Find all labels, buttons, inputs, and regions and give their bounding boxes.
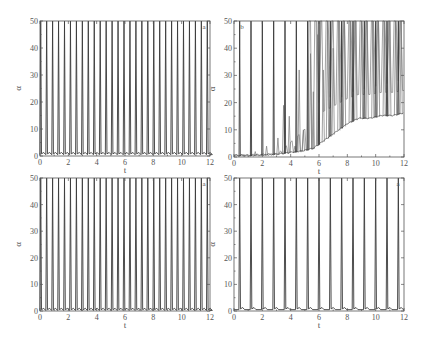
panel-top-right: 024681012t01020304050αb (207, 17, 408, 176)
x-tick-label: 4 (289, 313, 293, 322)
y-tick-label: 0 (228, 307, 232, 316)
secondary-peak (298, 70, 300, 152)
y-axis-label: α (13, 86, 23, 91)
panel-label: a (202, 23, 206, 31)
main-spike (296, 21, 297, 152)
series-line (234, 21, 404, 156)
main-spike (375, 21, 376, 118)
secondary-peak (302, 130, 304, 151)
y-axis: 01020304050α (207, 174, 404, 316)
secondary-peak (343, 21, 345, 126)
x-tick-label: 0 (38, 158, 42, 167)
x-tick-label: 0 (38, 313, 42, 322)
x-tick-label: 4 (95, 313, 99, 322)
secondary-peak (394, 21, 396, 116)
x-tick-label: 2 (260, 159, 264, 168)
panel-label: a (202, 180, 206, 188)
main-spike (330, 21, 331, 137)
panel-label: b (240, 23, 244, 31)
secondary-peak (389, 21, 391, 116)
y-tick-label: 20 (224, 99, 232, 108)
y-tick-label: 40 (224, 44, 232, 53)
secondary-peak (349, 21, 351, 123)
main-spike (364, 21, 365, 119)
y-tick-label: 50 (224, 174, 232, 183)
main-spike (273, 21, 274, 155)
main-spike (398, 21, 399, 115)
x-tick-label: 0 (232, 313, 236, 322)
main-spike (284, 21, 285, 154)
y-tick-label: 0 (34, 152, 38, 161)
y-tick-label: 20 (30, 254, 38, 263)
x-tick-label: 8 (345, 159, 349, 168)
spike-trace (40, 178, 212, 310)
main-spike (341, 21, 342, 128)
x-tick-label: 2 (66, 158, 70, 167)
y-tick-label: 30 (224, 71, 232, 80)
x-tick-label: 0 (232, 159, 236, 168)
y-tick-label: 20 (30, 98, 38, 107)
y-tick-label: 0 (34, 307, 38, 316)
x-tick-label: 2 (66, 313, 70, 322)
y-tick-label: 20 (224, 254, 232, 263)
secondary-peak (288, 116, 290, 153)
secondary-peak (383, 21, 385, 116)
panel-label: a (396, 180, 400, 188)
y-tick-label: 40 (30, 201, 38, 210)
y-tick-label: 40 (30, 44, 38, 53)
main-spike (250, 21, 251, 156)
main-spike (352, 21, 353, 122)
y-tick-label: 50 (30, 17, 38, 26)
spike-trace (40, 21, 212, 155)
x-tick-label: 12 (206, 313, 214, 322)
y-tick-label: 40 (224, 201, 232, 210)
x-tick-label: 12 (400, 159, 408, 168)
y-tick-label: 10 (224, 280, 232, 289)
y-axis-label: α (207, 86, 217, 91)
main-spike (239, 21, 240, 156)
x-tick-label: 12 (206, 158, 214, 167)
y-tick-label: 50 (224, 17, 232, 26)
x-tick-label: 2 (260, 313, 264, 322)
y-tick-label: 30 (30, 71, 38, 80)
x-tick-label: 10 (372, 313, 380, 322)
secondary-peak (366, 21, 368, 119)
secondary-peak (400, 21, 402, 114)
secondary-peak (277, 138, 279, 155)
y-tick-label: 50 (30, 174, 38, 183)
x-tick-label: 10 (372, 159, 380, 168)
y-tick-label: 10 (30, 280, 38, 289)
y-tick-label: 30 (30, 227, 38, 236)
x-tick-label: 8 (151, 158, 155, 167)
y-axis-label: α (13, 242, 23, 247)
spike-trace (234, 178, 404, 310)
secondary-peak (338, 21, 340, 130)
series-line (234, 178, 404, 310)
y-tick-label: 0 (228, 153, 232, 162)
x-tick-label: 10 (178, 313, 186, 322)
x-tick-label: 12 (400, 313, 408, 322)
secondary-peak (372, 21, 374, 118)
series-line (40, 21, 212, 155)
main-spike (386, 21, 387, 116)
secondary-peak (355, 21, 357, 120)
x-tick-label: 4 (289, 159, 293, 168)
y-axis-label: α (207, 242, 217, 247)
secondary-peak (360, 21, 362, 119)
secondary-peak (326, 21, 328, 139)
x-tick-label: 8 (151, 313, 155, 322)
x-tick-label: 10 (178, 158, 186, 167)
panel-top-left: 024681012t01020304050αa (13, 17, 214, 175)
y-tick-label: 10 (30, 125, 38, 134)
series-line (40, 178, 212, 310)
panel-bottom-left: 024681012t01020304050αa (13, 174, 214, 330)
panel-bottom-right: 024681012t01020304050αa (207, 174, 408, 330)
main-spike (262, 21, 263, 156)
y-tick-label: 30 (224, 227, 232, 236)
x-tick-label: 4 (95, 158, 99, 167)
secondary-peak (377, 21, 379, 117)
y-tick-label: 10 (224, 126, 232, 135)
x-tick-label: 8 (345, 313, 349, 322)
figure-canvas: 024681012t01020304050αa 024681012t010203… (0, 0, 425, 350)
